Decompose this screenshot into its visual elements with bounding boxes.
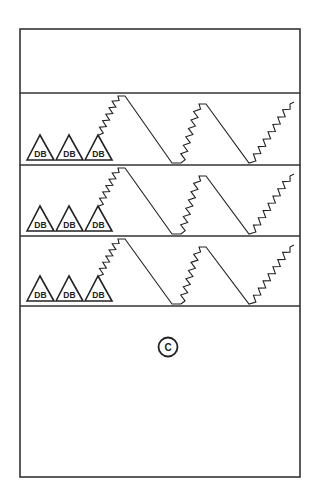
sawtooth-waveform bbox=[99, 168, 294, 234]
diagram-canvas: DBDBDBDBDBDBDBDBDB C bbox=[0, 0, 317, 500]
rows-layer: DBDBDBDBDBDBDBDBDB bbox=[27, 96, 294, 304]
outer-frame bbox=[20, 29, 300, 477]
marker-label: C bbox=[164, 342, 171, 353]
sawtooth-waveform bbox=[99, 96, 294, 163]
db-label: DB bbox=[92, 220, 104, 230]
db-label: DB bbox=[92, 149, 104, 159]
db-label: DB bbox=[34, 149, 46, 159]
db-label: DB bbox=[92, 290, 104, 300]
db-label: DB bbox=[34, 220, 46, 230]
row-1: DBDBDB bbox=[27, 96, 294, 163]
db-label: DB bbox=[63, 220, 75, 230]
db-label: DB bbox=[34, 290, 46, 300]
row-2: DBDBDB bbox=[27, 168, 294, 234]
row-3: DBDBDB bbox=[27, 239, 294, 304]
db-label: DB bbox=[63, 149, 75, 159]
db-label: DB bbox=[63, 290, 75, 300]
sawtooth-waveform bbox=[99, 239, 294, 304]
bottom-panel-marker: C bbox=[159, 338, 178, 357]
